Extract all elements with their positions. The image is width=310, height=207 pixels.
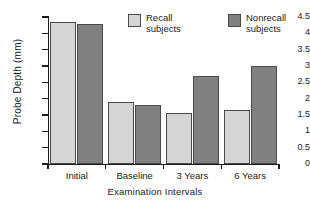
bar bbox=[224, 110, 250, 164]
y-axis-title: Probe Depth (mm) bbox=[12, 9, 23, 155]
bar-group-container bbox=[48, 17, 279, 164]
bar-chart: Probe Depth (mm) Examination Intervals 0… bbox=[0, 0, 310, 207]
bar bbox=[77, 24, 103, 164]
nonrecall-swatch bbox=[228, 14, 241, 27]
bar bbox=[251, 66, 277, 164]
legend-label-line1: Recall bbox=[146, 12, 181, 23]
bar bbox=[135, 105, 161, 164]
bar bbox=[108, 102, 134, 164]
legend-label: Nonrecallsubjects bbox=[246, 12, 286, 34]
x-axis-title: Examination Intervals bbox=[0, 186, 310, 197]
legend-label-line2: subjects bbox=[146, 23, 181, 34]
bar bbox=[193, 76, 219, 164]
legend-label: Recallsubjects bbox=[146, 12, 181, 34]
x-axis-tick bbox=[163, 164, 164, 169]
x-axis-tick bbox=[278, 164, 279, 169]
x-axis-tick bbox=[47, 164, 48, 169]
x-axis-tick bbox=[221, 164, 222, 169]
bar bbox=[166, 113, 192, 164]
legend-label-line1: Nonrecall bbox=[246, 12, 286, 23]
x-axis-tick bbox=[105, 164, 106, 169]
legend-label-line2: subjects bbox=[246, 23, 286, 34]
bar bbox=[50, 22, 76, 164]
x-axis-tick-label: 6 Years bbox=[210, 170, 290, 181]
recall-swatch bbox=[128, 14, 141, 27]
